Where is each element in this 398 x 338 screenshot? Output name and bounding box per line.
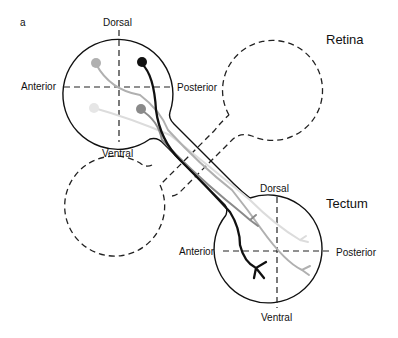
retina-title: Retina xyxy=(326,33,364,46)
retina-posterior-label: Posterior xyxy=(177,83,217,93)
tectum-dorsal-label: Dorsal xyxy=(260,184,289,194)
retina-dorsal-label: Dorsal xyxy=(103,18,132,28)
tectum-posterior-label: Posterior xyxy=(336,248,376,258)
tectum-title: Tectum xyxy=(326,197,368,210)
soma-black xyxy=(137,57,147,67)
panel-label: a xyxy=(20,18,26,28)
retina-ventral-label: Ventral xyxy=(102,149,133,159)
retina-anterior-label: Anterior xyxy=(21,82,56,92)
soma-light-gray xyxy=(89,103,99,113)
tectum-axes xyxy=(223,197,331,308)
retinotectal-diagram xyxy=(0,0,398,338)
soma-dark-gray xyxy=(136,104,146,114)
tectum-anterior-label: Anterior xyxy=(179,247,214,257)
tectum-ventral-label: Ventral xyxy=(261,313,292,323)
soma-mid-gray xyxy=(91,58,101,68)
